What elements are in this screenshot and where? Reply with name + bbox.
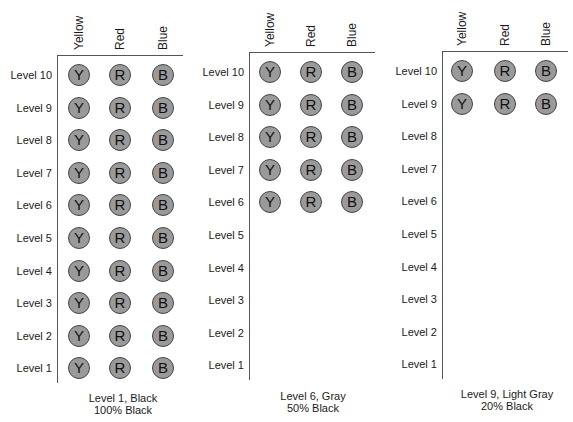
row-label: Level 9 [387,97,437,111]
row-label: Level 4 [387,260,437,274]
color-circle-blue: B [535,93,557,115]
row-label: Level 7 [387,162,437,176]
row-label: Level 5 [387,227,437,241]
color-circle-blue: B [535,60,557,82]
color-circle-yellow: Y [451,60,473,82]
row-label: Level 3 [387,292,437,306]
panel-caption-title: Level 9, Light Gray [437,388,573,400]
header-divider [442,51,568,52]
color-circle-yellow: Y [451,93,473,115]
column-label-red: Red [498,24,512,46]
panel-caption-percent: 20% Black [437,400,573,412]
row-label: Level 6 [387,194,437,208]
row-label: Level 1 [387,357,437,371]
column-label-yellow: Yellow [455,12,469,46]
row-label: Level 10 [387,64,437,78]
color-circle-red: R [494,93,516,115]
row-label: Level 8 [387,129,437,143]
row-label: Level 2 [387,325,437,339]
color-circle-red: R [494,60,516,82]
row-axis-line [442,51,443,379]
level-panel-3: YellowRedBlueLevel 10YRBLevel 9YRBLevel … [0,0,573,422]
column-label-blue: Blue [539,22,553,46]
